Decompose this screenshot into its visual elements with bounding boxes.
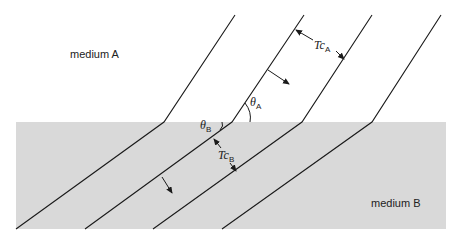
medium-b-region [16, 122, 446, 229]
theta-a-label: θA [250, 95, 262, 111]
theta-b-label: θB [200, 118, 211, 134]
tc-a-label: TcA [314, 38, 331, 54]
medium-a-label: medium A [70, 48, 120, 60]
refraction-diagram: TcA θA θB TcB medium A medium B [0, 0, 457, 241]
propagation-arrow-a [268, 70, 289, 84]
medium-b-label: medium B [371, 197, 421, 209]
